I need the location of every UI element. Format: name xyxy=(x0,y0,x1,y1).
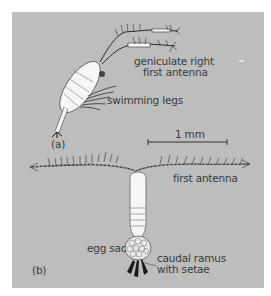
label-egg-sac: egg sac xyxy=(87,243,126,254)
label-first-antenna-a: first antenna xyxy=(143,67,208,78)
label-first-antenna-b: first antenna xyxy=(173,173,238,184)
scale-bar-label: 1 mm xyxy=(175,129,205,140)
copepod-a xyxy=(52,24,180,138)
copepod-illustration xyxy=(0,0,271,296)
egg-sac xyxy=(125,236,151,260)
panel-tag-a: (a) xyxy=(51,139,65,150)
label-swimming-legs: swimming legs xyxy=(107,95,183,106)
panel-tag-b: (b) xyxy=(32,265,46,276)
label-with-setae: with setae xyxy=(157,264,210,275)
